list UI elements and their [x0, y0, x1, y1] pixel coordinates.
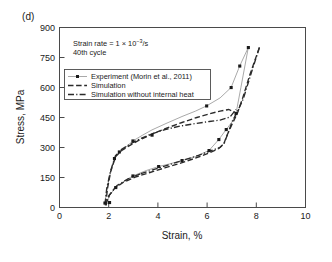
- y-tick-150: 150: [40, 173, 55, 183]
- x-tick-8: 8: [254, 211, 259, 221]
- x-axis-tick-labels: 0 2 4 6 8 10: [57, 211, 311, 221]
- y-axis-title: Stress, MPa: [15, 89, 26, 144]
- annotation-strain-rate-suffix: /s: [142, 39, 148, 48]
- simulation-no-internal-heat-unloading-curve-tail: [106, 174, 140, 206]
- annotation-strain-rate: Strain rate = 1 × 10−3/s: [73, 38, 148, 48]
- simulation-no-internal-heat-loading-curve: [105, 110, 236, 205]
- y-tick-300: 300: [40, 143, 55, 153]
- legend-label-simulation: Simulation: [91, 81, 126, 90]
- annotation-block: Strain rate = 1 × 10−3/s 40th cycle: [73, 38, 148, 57]
- simulation-no-internal-heat-unloading-curve: [140, 48, 259, 174]
- y-tick-900: 900: [40, 23, 55, 33]
- y-axis-tick-labels: 0 150 300 450 600 750 900: [40, 23, 55, 213]
- chart-legend: Experiment (Morin et al., 2011) Simulati…: [65, 70, 211, 100]
- y-tick-600: 600: [40, 83, 55, 93]
- x-tick-10: 10: [300, 211, 310, 221]
- legend-label-simulation-no-internal-heat: Simulation without internal heat: [91, 90, 194, 99]
- y-tick-450: 450: [40, 113, 55, 123]
- x-tick-6: 6: [205, 211, 210, 221]
- x-tick-2: 2: [106, 211, 111, 221]
- annotation-strain-rate-prefix: Strain rate = 1 × 10: [73, 39, 136, 48]
- simulation-loading-curve: [106, 110, 238, 205]
- annotation-cycle: 40th cycle: [73, 48, 106, 57]
- legend-swatch-experiment-marker: [76, 75, 79, 78]
- y-tick-750: 750: [40, 53, 55, 63]
- legend-label-experiment: Experiment (Morin et al., 2011): [91, 72, 192, 81]
- x-axis-title: Strain, %: [162, 230, 203, 241]
- x-tick-0: 0: [57, 211, 62, 221]
- x-tick-4: 4: [155, 211, 160, 221]
- y-axis-ticks: [60, 28, 65, 208]
- x-axis-ticks: [60, 203, 306, 208]
- figure-panel: (d) 0 150 300 450 600 750 900: [0, 0, 332, 262]
- y-tick-0: 0: [50, 203, 55, 213]
- stress-strain-chart: 0 150 300 450 600 750 900 0 2 4 6 8 10 S…: [0, 0, 332, 262]
